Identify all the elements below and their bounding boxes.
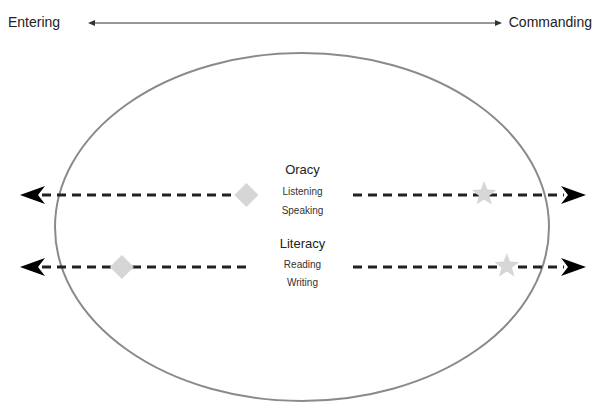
skill-label: Writing (0, 277, 605, 288)
skill-label: Speaking (0, 205, 605, 216)
scale-arrow-left-icon (88, 20, 95, 26)
scale-left-label: Entering (8, 14, 60, 30)
skill-label: Listening (0, 186, 605, 197)
scale-arrow-right-icon (495, 20, 502, 26)
category-label-literacy: Literacy (0, 236, 605, 251)
skill-label: Reading (0, 259, 605, 270)
category-label-oracy: Oracy (0, 162, 605, 177)
scale-right-label: Commanding (509, 14, 592, 30)
ellipse-boundary (55, 53, 549, 401)
